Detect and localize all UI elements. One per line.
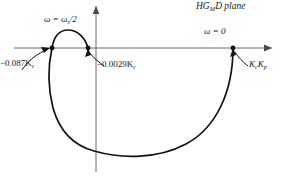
label-point-neg087-subscript: c — [32, 63, 35, 69]
plane-title-tail: D plane — [215, 1, 245, 11]
label-point-neg0029-value: −0.0029K — [97, 59, 133, 69]
label-point-neg0029: −0.0029Kc — [97, 60, 136, 70]
label-point-neg087-value: −0.087K — [0, 58, 32, 68]
plot-canvas — [0, 0, 283, 187]
label-omega-half: ω = ωs/2 — [44, 15, 77, 25]
real-axis-arrowhead — [264, 45, 272, 52]
imaginary-axis — [93, 6, 100, 172]
imaginary-axis-arrowhead — [93, 6, 100, 14]
plane-title-main: HG — [196, 1, 210, 11]
label-point-neg0029-subscript: c — [133, 64, 136, 70]
label-point-kckp-kp-subscript: p — [264, 64, 267, 70]
label-point-kckp: KcKp — [249, 60, 267, 70]
leader-kckp-line — [235, 52, 248, 66]
label-omega-zero: ω = 0 — [204, 27, 225, 36]
plane-title: HGMD plane — [196, 2, 245, 12]
leader-neg0029-arrowhead — [85, 48, 91, 57]
nyquist-locus-curve — [49, 30, 233, 156]
label-omega-half-main: ω = ω — [44, 14, 67, 24]
label-omega-half-tail: /2 — [70, 14, 77, 24]
label-point-neg087: −0.087Kc — [0, 59, 35, 69]
point-marker-neg087 — [50, 46, 55, 51]
nyquist-figure: HGMD plane ω = ωs/2 ω = 0 −0.087Kc −0.00… — [0, 0, 283, 187]
